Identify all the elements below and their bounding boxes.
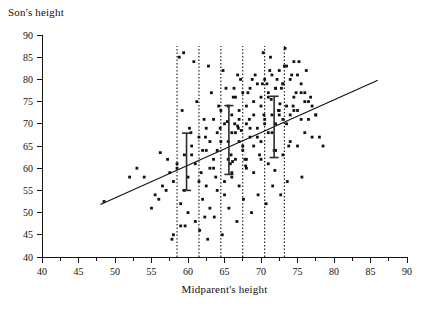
data-point bbox=[201, 149, 204, 152]
data-point bbox=[279, 193, 282, 196]
data-point bbox=[289, 114, 292, 117]
data-point bbox=[249, 127, 252, 130]
data-point bbox=[250, 211, 253, 214]
data-point bbox=[303, 91, 306, 94]
data-point bbox=[314, 114, 317, 117]
data-point bbox=[212, 158, 215, 161]
x-tick-label: 45 bbox=[74, 266, 84, 277]
data-point bbox=[269, 56, 272, 59]
x-tick-label: 55 bbox=[147, 266, 157, 277]
data-point bbox=[217, 105, 220, 108]
data-point bbox=[295, 91, 298, 94]
data-point bbox=[290, 74, 293, 77]
data-point bbox=[187, 211, 190, 214]
data-point bbox=[279, 102, 282, 105]
data-point bbox=[260, 96, 263, 99]
data-point bbox=[219, 109, 222, 112]
data-point bbox=[223, 193, 226, 196]
data-point bbox=[251, 78, 254, 81]
data-point bbox=[182, 51, 185, 54]
x-tick-label: 60 bbox=[183, 266, 193, 277]
data-point bbox=[157, 198, 160, 201]
data-point bbox=[292, 60, 295, 63]
data-point bbox=[300, 118, 303, 121]
data-point bbox=[252, 100, 255, 103]
data-point bbox=[230, 176, 233, 179]
data-point bbox=[252, 114, 255, 117]
data-point bbox=[256, 136, 259, 139]
data-point bbox=[265, 202, 268, 205]
data-point bbox=[209, 140, 212, 143]
data-point bbox=[205, 149, 208, 152]
x-tick-label: 85 bbox=[366, 266, 376, 277]
data-point bbox=[271, 114, 274, 117]
data-point bbox=[285, 122, 288, 125]
data-point bbox=[280, 87, 283, 90]
data-point bbox=[190, 153, 193, 156]
y-tick-label: 65 bbox=[23, 141, 33, 152]
data-point bbox=[161, 185, 164, 188]
data-point bbox=[278, 114, 281, 117]
data-point bbox=[307, 118, 310, 121]
data-points-layer bbox=[103, 47, 325, 241]
data-point bbox=[183, 153, 186, 156]
data-point bbox=[263, 78, 266, 81]
data-point bbox=[263, 122, 266, 125]
data-point bbox=[239, 78, 242, 81]
data-point bbox=[154, 193, 157, 196]
data-point bbox=[238, 109, 241, 112]
chart-figure: Son's height 404550556065707580859040455… bbox=[0, 0, 428, 315]
data-point bbox=[195, 100, 198, 103]
data-point bbox=[205, 185, 208, 188]
data-point bbox=[242, 198, 245, 201]
data-point bbox=[258, 153, 261, 156]
data-point bbox=[296, 145, 299, 148]
data-point bbox=[322, 145, 325, 148]
data-point bbox=[300, 176, 303, 179]
data-point bbox=[278, 69, 281, 72]
data-point bbox=[241, 145, 244, 148]
data-point bbox=[256, 82, 259, 85]
data-point bbox=[252, 171, 255, 174]
data-point bbox=[296, 74, 299, 77]
data-point bbox=[128, 176, 131, 179]
data-point bbox=[262, 51, 265, 54]
data-point bbox=[176, 162, 179, 165]
data-point bbox=[292, 96, 295, 99]
data-point bbox=[282, 82, 285, 85]
data-point bbox=[268, 69, 271, 72]
data-point bbox=[159, 151, 162, 154]
data-point bbox=[221, 233, 224, 236]
data-point bbox=[203, 216, 206, 219]
data-point bbox=[192, 60, 195, 63]
data-point bbox=[240, 129, 243, 132]
data-point bbox=[285, 105, 288, 108]
vertical-strip-lines bbox=[177, 46, 284, 257]
x-tick-label: 70 bbox=[256, 266, 266, 277]
data-point bbox=[230, 153, 233, 156]
x-tick-label: 75 bbox=[293, 266, 303, 277]
data-point bbox=[271, 185, 274, 188]
data-point bbox=[311, 105, 314, 108]
y-tick-label: 55 bbox=[23, 185, 33, 196]
data-point bbox=[267, 131, 270, 134]
data-point bbox=[318, 136, 321, 139]
data-point bbox=[246, 91, 249, 94]
data-point bbox=[292, 105, 295, 108]
data-point bbox=[210, 91, 213, 94]
data-point bbox=[184, 225, 187, 228]
data-point bbox=[219, 140, 222, 143]
data-point bbox=[276, 78, 279, 81]
data-point bbox=[271, 74, 274, 77]
data-point bbox=[205, 127, 208, 130]
x-tick-label: 90 bbox=[402, 266, 412, 277]
data-point bbox=[249, 87, 252, 90]
error-bar bbox=[270, 96, 279, 157]
data-point bbox=[263, 114, 266, 117]
data-point bbox=[209, 207, 212, 210]
data-point bbox=[252, 145, 255, 148]
data-point bbox=[234, 131, 237, 134]
data-point bbox=[222, 69, 225, 72]
data-point bbox=[227, 207, 230, 210]
error-bar bbox=[182, 133, 191, 190]
